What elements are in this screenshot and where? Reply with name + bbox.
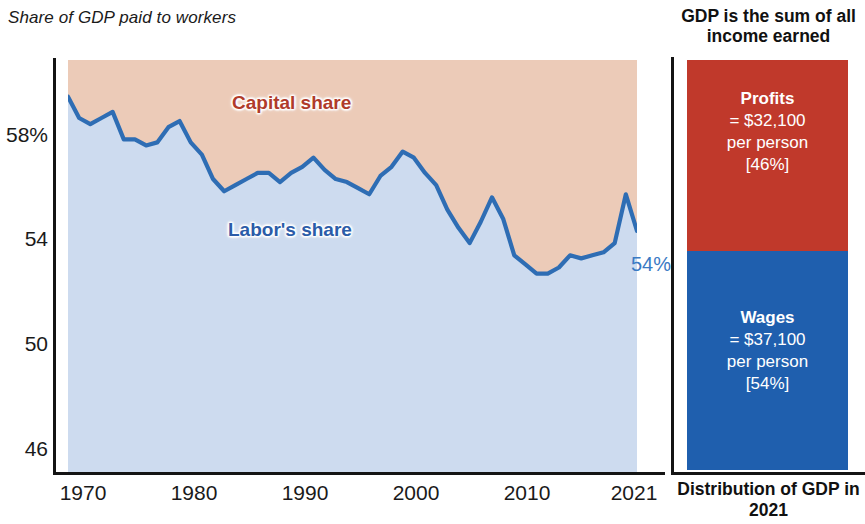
capital-share-label: Capital share (232, 92, 351, 114)
x-tick-3: 2000 (393, 481, 440, 505)
wages-amount: = $37,100 (729, 330, 805, 349)
distribution-panel: GDP is the sum of all income earned Prof… (672, 0, 865, 524)
profits-segment-text: Profits = $32,100 per person [46%] (687, 88, 848, 176)
profits-segment: Profits = $32,100 per person [46%] (687, 60, 848, 251)
y-tick-0: 58% (6, 123, 48, 147)
y-tick-1: 54 (25, 227, 48, 251)
y-tick-2: 50 (25, 332, 48, 356)
profits-amount: = $32,100 (729, 111, 805, 130)
wages-unit: per person (727, 352, 808, 371)
y-tick-3: 46 (25, 437, 48, 461)
wages-segment-text: Wages = $37,100 per person [54%] (687, 307, 848, 395)
x-tick-2: 1990 (282, 481, 329, 505)
x-tick-0: 1970 (60, 481, 107, 505)
wages-heading: Wages (687, 307, 848, 329)
line-area-chart-panel: 58% 54 50 46 Capital share Labor's share… (0, 0, 672, 524)
y-axis-line (53, 58, 56, 475)
distribution-footer: Distribution of GDP in 2021 (672, 479, 865, 521)
plot-area (68, 60, 637, 472)
wages-segment: Wages = $37,100 per person [54%] (687, 251, 848, 470)
y-axis-tick-labels: 58% 54 50 46 (0, 0, 48, 524)
profits-share: [46%] (746, 155, 789, 174)
series-svg (68, 60, 637, 472)
distribution-panel-title: GDP is the sum of all income earned (672, 6, 865, 46)
x-tick-4: 2010 (504, 481, 551, 505)
stacked-bar: Profits = $32,100 per person [46%] Wages… (687, 60, 848, 470)
labor-share-label: Labor's share (228, 219, 352, 241)
wages-share: [54%] (746, 374, 789, 393)
distribution-footer-rule (672, 472, 865, 475)
x-tick-1: 1980 (171, 481, 218, 505)
profits-unit: per person (727, 133, 808, 152)
profits-heading: Profits (687, 88, 848, 110)
x-tick-5: 2021 (611, 481, 658, 505)
endpoint-value-label: 54% (631, 253, 671, 276)
infographic-root: Share of GDP paid to workers 58% 54 50 4… (0, 0, 865, 524)
x-axis-line (53, 472, 665, 475)
